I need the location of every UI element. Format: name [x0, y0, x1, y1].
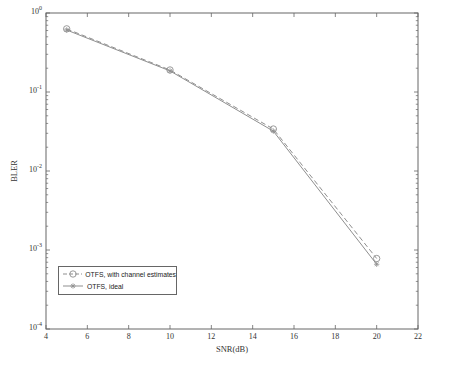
- y-tick-label: 10-4: [2, 323, 42, 333]
- y-tick-label: 100: [2, 7, 42, 17]
- x-tick-label: 12: [200, 332, 222, 341]
- x-tick-label: 20: [366, 332, 388, 341]
- series-line-with-channel-estimates: [67, 29, 377, 259]
- x-tick-label: 22: [407, 332, 429, 341]
- figure: SNR(dB) BLER OTFS, with channel estimate…: [0, 0, 449, 370]
- x-axis-label: SNR(dB): [46, 344, 418, 354]
- x-tick-label: 4: [35, 332, 57, 341]
- chart-canvas: [0, 0, 449, 370]
- y-tick-label: 10-2: [2, 165, 42, 175]
- y-tick-label: 10-3: [2, 244, 42, 254]
- x-tick-label: 18: [324, 332, 346, 341]
- x-tick-label: 16: [283, 332, 305, 341]
- legend-item-ideal: OTFS, ideal: [62, 280, 176, 292]
- x-tick-label: 10: [159, 332, 181, 341]
- legend-sample-solid-asterisk-icon: [62, 281, 84, 291]
- legend-label: OTFS, ideal: [87, 283, 123, 290]
- y-tick-label: 10-1: [2, 86, 42, 96]
- x-tick-label: 8: [118, 332, 140, 341]
- x-tick-label: 6: [76, 332, 98, 341]
- legend-sample-dashed-circle-icon: [62, 269, 82, 279]
- legend: OTFS, with channel estimates OTFS, ideal: [58, 266, 177, 295]
- x-tick-label: 14: [242, 332, 264, 341]
- series-line-ideal: [67, 30, 377, 264]
- legend-item-with-channel-estimates: OTFS, with channel estimates: [62, 268, 176, 280]
- legend-label: OTFS, with channel estimates: [85, 271, 176, 278]
